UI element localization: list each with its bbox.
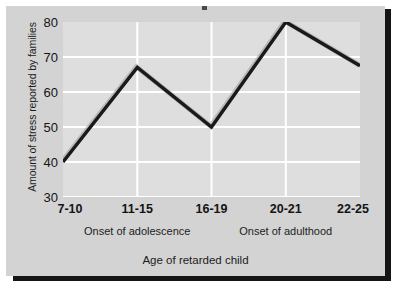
onset-annotations: Onset of adolescenceOnset of adulthood (63, 225, 360, 241)
card-shadow-right (384, 9, 391, 281)
x-axis-tick-label: 22-25 (337, 202, 369, 216)
x-axis-tick-label: 20-21 (270, 202, 302, 216)
chart-card: Amount of stress reported by families 30… (6, 6, 385, 276)
y-axis-tick-label: 70 (44, 50, 58, 65)
y-axis-tick-label: 60 (44, 85, 58, 100)
x-axis-tick-label: 16-19 (196, 202, 228, 216)
x-axis-tick-label: 7-10 (57, 202, 82, 216)
y-axis-tick-label: 50 (44, 120, 58, 135)
top-edge-artifact (202, 6, 207, 10)
plot-area (63, 22, 360, 197)
chart-figure: Amount of stress reported by families 30… (0, 0, 396, 293)
x-axis-tick-label: 11-15 (122, 202, 153, 216)
y-axis-tick-label: 40 (44, 155, 58, 170)
line-chart-svg (63, 22, 360, 197)
x-axis-tick-labels: 7-1011-1516-1920-2122-25 (63, 202, 360, 218)
onset-annotation-label: Onset of adulthood (239, 225, 332, 237)
y-axis-tick-label: 30 (44, 190, 58, 205)
onset-annotation-label: Onset of adolescence (84, 225, 190, 237)
x-axis-title: Age of retarded child (6, 254, 385, 266)
y-axis-tick-label: 80 (44, 15, 58, 30)
y-axis-tick-labels: 304050607080 (28, 16, 58, 198)
